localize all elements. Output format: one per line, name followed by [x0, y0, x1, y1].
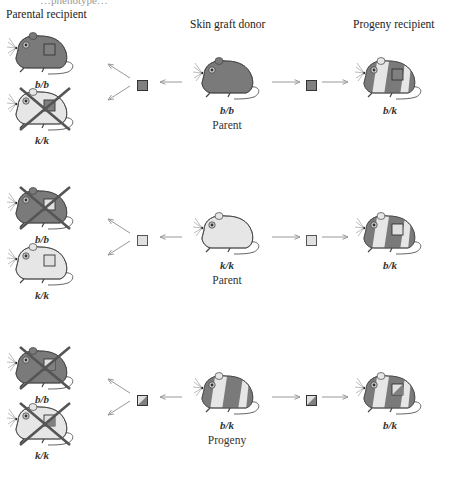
arrows-layer — [0, 0, 454, 489]
